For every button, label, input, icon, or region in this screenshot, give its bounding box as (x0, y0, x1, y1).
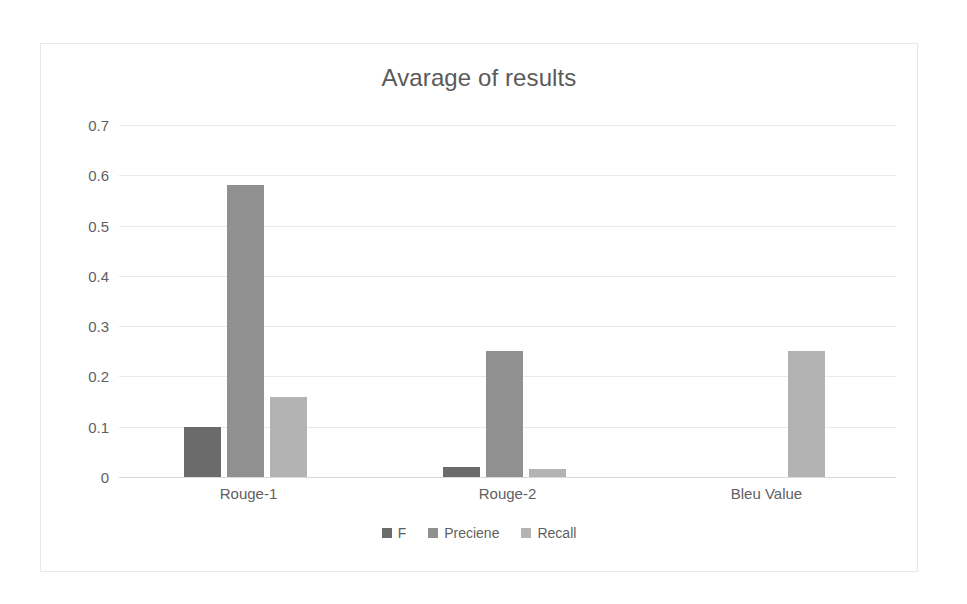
x-axis-label: Bleu Value (731, 485, 802, 502)
plot-area: 00.10.20.30.40.50.60.7 (119, 125, 896, 477)
chart-legend: FPrecieneRecall (41, 525, 917, 541)
gridline (119, 477, 896, 478)
y-axis-tick-label: 0.4 (88, 267, 109, 284)
bar-recall-rouge-2 (529, 469, 566, 477)
y-axis-tick-label: 0.1 (88, 418, 109, 435)
bar-recall-bleu-value (788, 351, 825, 477)
legend-item-preciene[interactable]: Preciene (428, 525, 499, 541)
legend-label: Preciene (444, 525, 499, 541)
bar-preciene-rouge-2 (486, 351, 523, 477)
bar-f-rouge-1 (184, 427, 221, 477)
bar-recall-rouge-1 (270, 397, 307, 477)
y-axis-tick-label: 0.3 (88, 318, 109, 335)
x-axis-labels: Rouge-1Rouge-2Bleu Value (119, 485, 896, 509)
y-axis-tick-label: 0 (101, 469, 109, 486)
chart-container: Avarage of results 00.10.20.30.40.50.60.… (40, 43, 918, 572)
legend-item-recall[interactable]: Recall (521, 525, 576, 541)
legend-swatch-icon (382, 528, 392, 538)
x-axis-label: Rouge-2 (479, 485, 537, 502)
y-axis-tick-label: 0.2 (88, 368, 109, 385)
legend-item-f[interactable]: F (382, 525, 407, 541)
legend-label: F (398, 525, 407, 541)
y-axis-tick-label: 0.7 (88, 117, 109, 134)
x-axis-label: Rouge-1 (220, 485, 278, 502)
bar-f-rouge-2 (443, 467, 480, 477)
y-axis-tick-label: 0.6 (88, 167, 109, 184)
y-axis-tick-label: 0.5 (88, 217, 109, 234)
bars-layer (119, 125, 896, 477)
chart-title: Avarage of results (41, 64, 917, 92)
legend-swatch-icon (521, 528, 531, 538)
bar-preciene-rouge-1 (227, 185, 264, 477)
legend-swatch-icon (428, 528, 438, 538)
legend-label: Recall (537, 525, 576, 541)
